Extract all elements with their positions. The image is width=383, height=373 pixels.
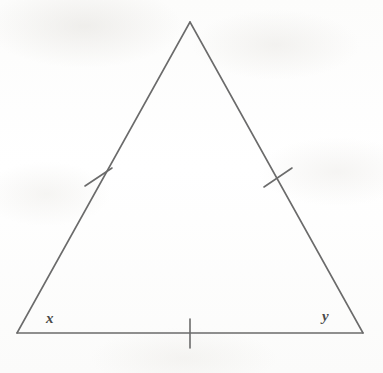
- right-leg-tick-icon: [264, 168, 292, 187]
- geometry-figure: x y: [0, 0, 383, 373]
- tick-marks-group: [85, 168, 292, 348]
- right-leg-line: [190, 22, 363, 333]
- angle-label-x: x: [46, 311, 54, 326]
- left-leg-line: [17, 22, 190, 333]
- triangle-outline: [17, 22, 363, 333]
- angle-label-y: y: [322, 309, 329, 324]
- left-leg-tick-icon: [85, 168, 112, 186]
